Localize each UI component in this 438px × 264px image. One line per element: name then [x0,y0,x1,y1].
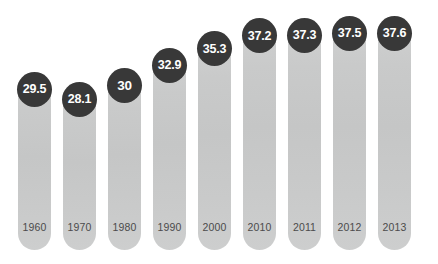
data-value-bubble: 28.1 [62,82,97,117]
chart-plot-area: 196029.5197028.1198030199032.9200035.320… [0,0,438,264]
bar-column[interactable]: 2013 [378,24,411,250]
bar-shape [198,40,231,250]
data-value-bubble: 32.9 [152,48,187,83]
x-axis-tick-label: 2011 [288,222,321,233]
bar-column[interactable]: 2012 [333,25,366,250]
bar-column[interactable]: 2011 [288,26,321,250]
bar-shape [333,25,366,250]
data-value-bubble: 37.5 [332,16,367,51]
data-value-bubble: 37.6 [377,16,412,51]
bar-shape [243,27,276,250]
data-value-bubble: 29.5 [17,72,52,107]
bar-shape [378,24,411,250]
bar-column[interactable]: 2000 [198,40,231,250]
data-value-bubble: 37.3 [287,18,322,53]
x-axis-tick-label: 1970 [63,222,96,233]
bar-shape [288,26,321,250]
bar-column[interactable]: 2010 [243,27,276,250]
x-axis-tick-label: 1990 [153,222,186,233]
x-axis-tick-label: 2013 [378,222,411,233]
x-axis-tick-label: 2012 [333,222,366,233]
x-axis-tick-label: 2010 [243,222,276,233]
x-axis-tick-label: 1980 [108,222,141,233]
x-axis-tick-label: 1960 [18,222,51,233]
bar-chart: 196029.5197028.1198030199032.9200035.320… [0,0,438,264]
bar-column[interactable]: 1990 [153,57,186,250]
x-axis-tick-label: 2000 [198,222,231,233]
